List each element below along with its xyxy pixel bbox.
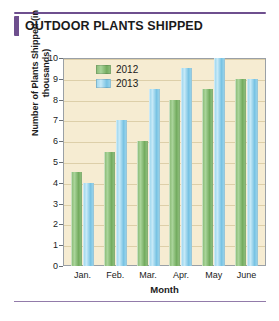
x-axis-tick-label: Apr. xyxy=(173,270,189,280)
y-axis-tick-label: 9 xyxy=(38,74,58,84)
bottom-rule xyxy=(14,301,266,302)
chart-container: Number of Plants Shipped (in thousands) … xyxy=(0,44,279,284)
x-axis-tick-label: Jan. xyxy=(74,270,91,280)
x-axis-tick-label: May xyxy=(205,270,222,280)
bar-2013-Feb xyxy=(116,120,127,266)
legend-swatch-2012 xyxy=(96,65,111,74)
y-axis-tick-label: 10 xyxy=(38,53,58,63)
bar-group xyxy=(235,58,258,266)
bar-2013-Mar xyxy=(149,89,160,266)
y-axis-tick-label: 7 xyxy=(38,115,58,125)
x-axis-tick-label: June xyxy=(237,270,257,280)
bar-group xyxy=(169,58,192,266)
y-axis-tick-mark xyxy=(59,266,63,267)
y-axis-tick-mark xyxy=(59,204,63,205)
legend-swatch-2013 xyxy=(96,79,111,88)
bar-2013-Jan xyxy=(83,183,94,266)
bar-2012-Mar xyxy=(137,141,148,266)
x-axis-tick-label: Mar. xyxy=(139,270,157,280)
y-axis-tick-mark xyxy=(59,100,63,101)
bar-2012-Jan xyxy=(71,172,82,266)
bar-2012-June xyxy=(235,79,246,266)
bar-group xyxy=(202,58,225,266)
y-axis-tick-label: 2 xyxy=(38,219,58,229)
y-axis-tick-mark xyxy=(59,245,63,246)
y-axis-tick-mark xyxy=(59,162,63,163)
y-axis-tick-label: 4 xyxy=(38,178,58,188)
y-axis-tick-label: 5 xyxy=(38,157,58,167)
y-axis-tick-label: 1 xyxy=(38,240,58,250)
y-axis-tick-label: 8 xyxy=(38,95,58,105)
y-axis-tick-label: 0 xyxy=(38,261,58,271)
bar-2012-Apr xyxy=(169,100,180,266)
y-axis-tick-mark xyxy=(59,183,63,184)
bar-group xyxy=(104,58,127,266)
legend-item-2013: 2013 xyxy=(96,78,138,89)
bar-group xyxy=(137,58,160,266)
bar-groups xyxy=(63,58,266,266)
y-axis-tick-mark xyxy=(59,141,63,142)
y-axis-tick-label: 6 xyxy=(38,136,58,146)
chart-legend: 20122013 xyxy=(96,64,138,89)
legend-item-2012: 2012 xyxy=(96,64,138,75)
y-axis-tick-mark xyxy=(59,224,63,225)
legend-label-2012: 2012 xyxy=(116,64,138,75)
y-axis-tick-label: 3 xyxy=(38,199,58,209)
x-axis-label: Month xyxy=(63,284,266,295)
bar-2013-June xyxy=(247,79,258,266)
y-axis-tick-mark xyxy=(59,58,63,59)
y-axis-tick-mark xyxy=(59,79,63,80)
bar-2012-Feb xyxy=(104,152,115,266)
x-axis-tick-label: Feb. xyxy=(106,270,124,280)
bar-group xyxy=(71,58,94,266)
bar-2013-May xyxy=(214,58,225,266)
y-axis-tick-mark xyxy=(59,120,63,121)
bar-2012-May xyxy=(202,89,213,266)
legend-label-2013: 2013 xyxy=(116,78,138,89)
bar-2013-Apr xyxy=(181,68,192,266)
